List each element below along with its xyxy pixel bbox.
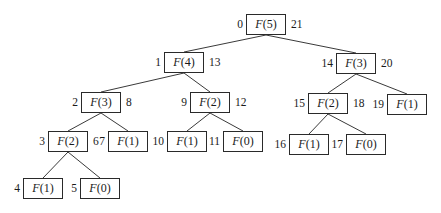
function-name: F — [355, 137, 362, 151]
tree-edge — [328, 74, 356, 93]
function-name: F — [345, 56, 352, 70]
tree-node: F(4) — [164, 52, 204, 73]
function-name: F — [317, 96, 324, 110]
pre-order-number: 7 — [85, 135, 105, 147]
node-label: F(2) — [317, 96, 338, 111]
tree-node: F(2) — [190, 92, 230, 113]
node-label: F(4) — [173, 55, 194, 70]
pre-order-number: 16 — [266, 138, 286, 150]
pre-order-number: 2 — [58, 96, 78, 108]
function-name: F — [232, 134, 239, 148]
function-name: F — [298, 137, 305, 151]
tree-node: F(0) — [223, 131, 263, 152]
function-name: F — [90, 95, 97, 109]
function-name: F — [32, 181, 39, 195]
node-label: F(1) — [298, 137, 319, 152]
node-label: F(1) — [176, 134, 197, 149]
post-order-number: 12 — [235, 96, 255, 108]
node-label: F(2) — [199, 95, 220, 110]
tree-edge — [356, 74, 407, 94]
function-name: F — [176, 134, 183, 148]
pre-order-number: 14 — [313, 57, 333, 69]
pre-order-number: 15 — [285, 97, 305, 109]
tree-node: F(1) — [108, 131, 148, 152]
tree-node: F(3) — [336, 53, 376, 74]
function-name: F — [255, 17, 262, 31]
post-order-number: 20 — [381, 57, 401, 69]
node-label: F(0) — [89, 181, 110, 196]
pre-order-number: 17 — [323, 138, 343, 150]
recursion-tree: F(5)021F(4)113F(3)28F(2)36F(1)4F(0)5F(1)… — [0, 0, 441, 213]
tree-node: F(5) — [246, 14, 286, 35]
tree-node: F(3) — [81, 92, 121, 113]
node-label: F(0) — [355, 137, 376, 152]
function-name: F — [396, 97, 403, 111]
tree-edge — [184, 73, 210, 92]
tree-edge — [101, 113, 128, 131]
pre-order-number: 9 — [167, 96, 187, 108]
tree-edge — [266, 35, 356, 53]
tree-edge — [328, 114, 366, 134]
tree-edge — [187, 113, 210, 131]
post-order-number: 21 — [291, 18, 311, 30]
tree-node: F(0) — [80, 178, 120, 199]
node-label: F(1) — [32, 181, 53, 196]
post-order-number: 8 — [126, 96, 146, 108]
pre-order-number: 0 — [223, 18, 243, 30]
tree-edge — [309, 114, 328, 134]
node-label: F(1) — [396, 97, 417, 112]
pre-order-number: 19 — [364, 98, 384, 110]
pre-order-number: 10 — [144, 135, 164, 147]
pre-order-number: 1 — [141, 56, 161, 68]
tree-edge — [43, 152, 68, 178]
function-name: F — [57, 134, 64, 148]
pre-order-number: 4 — [0, 182, 20, 194]
tree-edge — [184, 35, 266, 52]
node-label: F(3) — [345, 56, 366, 71]
node-label: F(0) — [232, 134, 253, 149]
function-name: F — [89, 181, 96, 195]
tree-edge — [68, 113, 101, 131]
tree-node: F(2) — [308, 93, 348, 114]
tree-node: F(0) — [346, 134, 386, 155]
node-label: F(2) — [57, 134, 78, 149]
tree-edge — [101, 73, 184, 92]
tree-edge — [68, 152, 100, 178]
pre-order-number: 5 — [57, 182, 77, 194]
node-label: F(5) — [255, 17, 276, 32]
node-label: F(3) — [90, 95, 111, 110]
function-name: F — [199, 95, 206, 109]
function-name: F — [117, 134, 124, 148]
post-order-number: 13 — [209, 56, 229, 68]
function-name: F — [173, 55, 180, 69]
node-label: F(1) — [117, 134, 138, 149]
tree-node: F(2) — [48, 131, 88, 152]
pre-order-number: 11 — [200, 135, 220, 147]
tree-node: F(1) — [387, 94, 427, 115]
tree-edge — [210, 113, 243, 131]
pre-order-number: 3 — [25, 135, 45, 147]
